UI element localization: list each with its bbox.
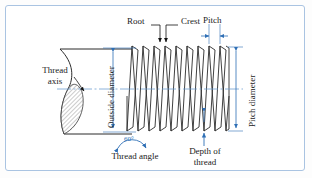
pitch-dimension xyxy=(201,24,228,44)
thread-profile xyxy=(127,46,229,131)
label-pitch: Pitch xyxy=(203,16,222,25)
label-depth-of-thread-line2: thread xyxy=(178,158,232,167)
label-thread-axis-line2: axis xyxy=(29,77,81,86)
label-thread-axis-line1: Thread xyxy=(29,66,81,75)
label-root: Root xyxy=(127,17,145,26)
figure-canvas: Root Crest Pitch Thread axis Outside dia… xyxy=(0,0,312,178)
label-outside-diameter: Outside diameter xyxy=(107,66,116,128)
label-depth-of-thread-line1: Depth of xyxy=(178,147,232,156)
section-hatch xyxy=(61,84,83,134)
label-pitch-diameter: Pitch diameter xyxy=(248,75,257,127)
label-crest: Crest xyxy=(181,17,200,26)
crest-leader xyxy=(166,25,178,42)
label-thread-angle-value: 60° xyxy=(124,136,134,143)
label-thread-angle: Thread angle xyxy=(94,152,176,161)
root-leader xyxy=(151,25,160,42)
